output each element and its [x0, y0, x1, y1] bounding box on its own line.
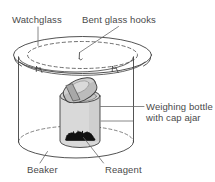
leader-bent-glass-hooks [80, 27, 119, 53]
label-watchglass: Watchglass [12, 14, 62, 25]
apparatus-diagram: Watchglass Bent glass hooks Weighing bot… [0, 0, 215, 182]
leader-beaker [40, 152, 48, 164]
label-beaker: Beaker [27, 164, 58, 175]
label-weighing-bottle: Weighing bottle with cap ajar [146, 101, 213, 123]
label-weighing-bottle-line-1: Weighing bottle [146, 101, 213, 112]
diagram-canvas [0, 0, 215, 182]
label-reagent: Reagent [105, 164, 142, 175]
label-weighing-bottle-line-2: with cap ajar [146, 112, 213, 123]
watchglass-shape [14, 37, 152, 76]
label-bent-glass-hooks: Bent glass hooks [82, 14, 156, 25]
